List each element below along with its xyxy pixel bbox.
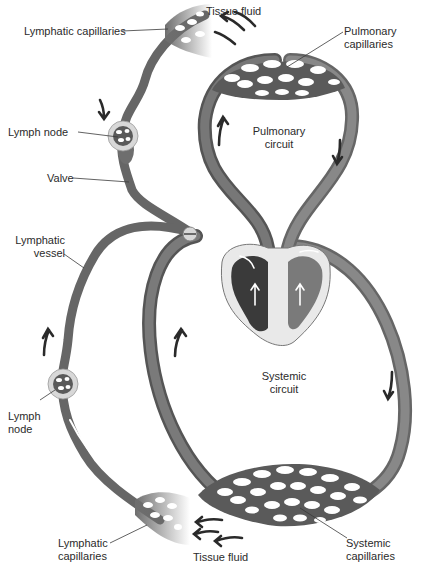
arrow-left-icon bbox=[196, 517, 222, 527]
lymphatic-capillaries-top bbox=[165, 4, 212, 58]
label-pulmonary-capillaries: Pulmonary capillaries bbox=[344, 25, 397, 51]
arrow-up-icon bbox=[218, 117, 228, 145]
label-tissue-fluid-top: Tissue fluid bbox=[206, 5, 261, 18]
circulation-diagram bbox=[0, 0, 426, 568]
arrow-up-icon bbox=[175, 329, 186, 356]
arrow-up-icon bbox=[43, 329, 53, 355]
label-lymph-node-top: Lymph node bbox=[8, 126, 68, 139]
label-systemic-capillaries: Systemic capillaries bbox=[346, 537, 395, 563]
arrow-up-left-icon bbox=[215, 32, 235, 44]
label-lymph-node-bottom: Lymph node bbox=[8, 410, 41, 436]
label-valve: Valve bbox=[47, 172, 74, 185]
heart bbox=[221, 244, 330, 345]
arrow-left-icon bbox=[194, 529, 218, 539]
arrow-left-icon bbox=[215, 536, 242, 546]
label-lymphatic-capillaries-top: Lymphatic capillaries bbox=[24, 25, 126, 38]
valve bbox=[183, 227, 197, 241]
label-systemic-circuit: Systemic circuit bbox=[254, 370, 314, 396]
lymphatic-capillaries-bottom bbox=[135, 492, 190, 545]
arrow-down-icon bbox=[99, 100, 109, 119]
arrow-down-icon bbox=[384, 372, 393, 399]
label-lymphatic-vessel: Lymphatic vessel bbox=[10, 234, 65, 260]
label-tissue-fluid-bottom: Tissue fluid bbox=[193, 551, 248, 564]
label-pulmonary-circuit: Pulmonary circuit bbox=[249, 125, 309, 151]
arrow-down-icon bbox=[333, 140, 342, 164]
systemic-capillary-bed bbox=[198, 464, 380, 526]
lymph-node-lower bbox=[48, 369, 78, 399]
label-lymphatic-capillaries-bottom: Lymphatic capillaries bbox=[58, 537, 108, 563]
